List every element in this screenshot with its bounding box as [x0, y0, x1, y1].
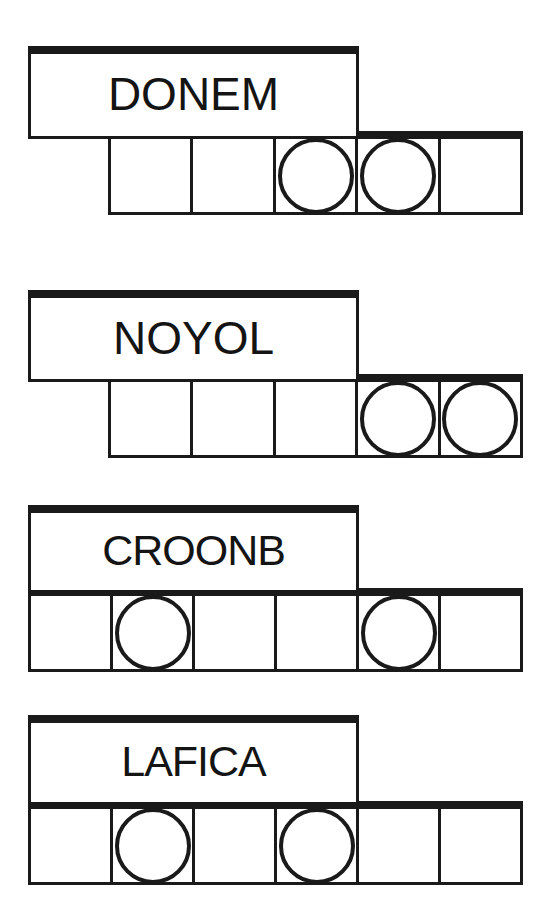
cell-empty[interactable]: [441, 596, 520, 669]
word-label-box[interactable]: DONEM: [28, 46, 359, 139]
cell-circled[interactable]: [113, 809, 195, 882]
circle-marker-icon: [360, 138, 436, 214]
word-label-box[interactable]: LAFICA: [28, 715, 359, 805]
cell-row: [28, 588, 523, 672]
cell-empty[interactable]: [195, 809, 277, 882]
cell-empty[interactable]: [195, 596, 277, 669]
word-label-text: CROONB: [102, 529, 285, 572]
cell-empty[interactable]: [111, 139, 193, 212]
cell-empty[interactable]: [277, 596, 359, 669]
cell-circled[interactable]: [358, 139, 440, 212]
cell-empty[interactable]: [276, 382, 358, 455]
cell-empty[interactable]: [193, 382, 275, 455]
cell-row: [108, 374, 523, 458]
circle-marker-icon: [115, 808, 191, 884]
circle-marker-icon: [279, 808, 355, 884]
circle-marker-icon: [442, 381, 518, 457]
cell-circled[interactable]: [359, 596, 441, 669]
cell-circled[interactable]: [276, 139, 358, 212]
cell-empty[interactable]: [441, 809, 520, 882]
diagram-canvas: DONEMNOYOLCROONBLAFICA: [0, 0, 556, 917]
circle-marker-icon: [278, 138, 354, 214]
word-label-text: DONEM: [108, 71, 279, 117]
cell-empty[interactable]: [359, 809, 441, 882]
cell-row: [28, 801, 523, 885]
word-label-text: NOYOL: [113, 315, 274, 361]
cell-empty[interactable]: [31, 596, 113, 669]
circle-marker-icon: [361, 595, 437, 671]
cell-circled[interactable]: [358, 382, 440, 455]
word-label-box[interactable]: NOYOL: [28, 290, 359, 382]
cell-circled[interactable]: [277, 809, 359, 882]
cell-circled[interactable]: [113, 596, 195, 669]
circle-marker-icon: [115, 595, 191, 671]
cell-circled[interactable]: [441, 382, 520, 455]
cell-empty[interactable]: [111, 382, 193, 455]
word-label-box[interactable]: CROONB: [28, 505, 359, 593]
cell-empty[interactable]: [193, 139, 275, 212]
circle-marker-icon: [360, 381, 436, 457]
cell-row: [108, 131, 523, 215]
cell-empty[interactable]: [441, 139, 520, 212]
word-label-text: LAFICA: [121, 740, 266, 783]
cell-empty[interactable]: [31, 809, 113, 882]
